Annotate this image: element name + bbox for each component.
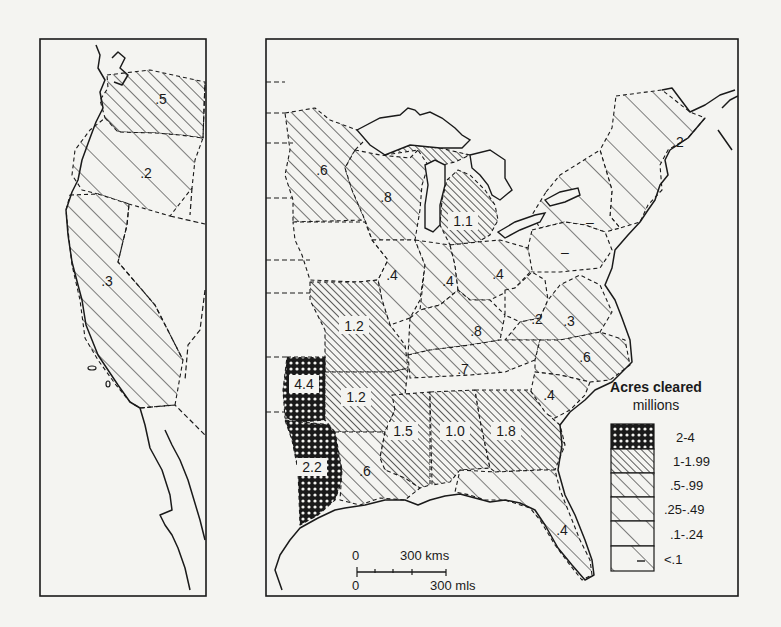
legend-label-lt-.1: <.1 [664, 552, 682, 567]
label-pennsylvania: – [561, 244, 569, 260]
legend-swatch-2-4 [611, 424, 654, 449]
legend-swatch-lt-.1 [611, 546, 654, 571]
legend-title: Acres cleared [610, 379, 702, 395]
label-new-york: – [586, 214, 594, 230]
label-louisiana: .6 [359, 463, 371, 479]
legend-swatch-1-1.99 [611, 449, 654, 473]
acres-cleared-map: .6 .8 1.1 .2 – .4 .4 .4 1.2 .8 .2 .3 .7 … [0, 0, 781, 627]
label-michigan: 1.1 [453, 213, 473, 229]
label-indiana: .4 [442, 273, 454, 289]
region-california [66, 194, 183, 408]
west-panel [66, 45, 210, 590]
legend-label-.5-.99: .5-.99 [670, 478, 703, 493]
scale-mi-label: 300 mls [430, 578, 476, 593]
label-north-carolina: .6 [579, 349, 591, 365]
label-missouri: 1.2 [344, 318, 364, 334]
label-georgia: 1.8 [496, 423, 516, 439]
label-south-carolina: .4 [543, 387, 555, 403]
label-washington: .5 [155, 91, 167, 107]
label-kentucky: .8 [470, 323, 482, 339]
legend-label-.25-.49: .25-.49 [664, 502, 704, 517]
label-alabama: 1.0 [445, 423, 465, 439]
legend-units: millions [633, 397, 680, 413]
label-west-virginia: .2 [531, 311, 543, 327]
label-virginia: .3 [563, 313, 575, 329]
label-mississippi: 1.5 [393, 423, 413, 439]
label-southeast-texas: 2.2 [302, 459, 322, 475]
label-wisconsin: .8 [380, 189, 392, 205]
label-minnesota: .6 [316, 162, 328, 178]
legend-label-2-4: 2-4 [676, 430, 695, 445]
label-ohio: .4 [492, 266, 504, 282]
label-illinois: .4 [386, 267, 398, 283]
label-florida: .4 [556, 522, 568, 538]
label-oregon: .2 [140, 165, 152, 181]
label-arkansas: 1.2 [346, 389, 366, 405]
label-tennessee: .7 [457, 361, 469, 377]
legend: Acres cleared millions 2-4 1-1.99 .5-.99… [610, 379, 710, 571]
scale-mi-zero: 0 [352, 578, 359, 593]
legend-swatch-.25-.49 [611, 497, 654, 521]
legend-label-1-1.99: 1-1.99 [673, 454, 710, 469]
scale-km-zero: 0 [352, 548, 359, 563]
legend-label-.1-.24: .1-.24 [670, 527, 703, 542]
scale-km-label: 300 kms [400, 548, 450, 563]
legend-swatch-.5-.99 [611, 473, 654, 497]
label-new-england: .2 [672, 134, 684, 150]
legend-swatch-.1-.24 [611, 521, 654, 546]
label-california: .3 [101, 273, 113, 289]
scale-bar: 0 300 kms 0 300 mls [352, 548, 476, 593]
region-washington [100, 70, 205, 138]
label-east-texas: 4.4 [294, 376, 314, 392]
